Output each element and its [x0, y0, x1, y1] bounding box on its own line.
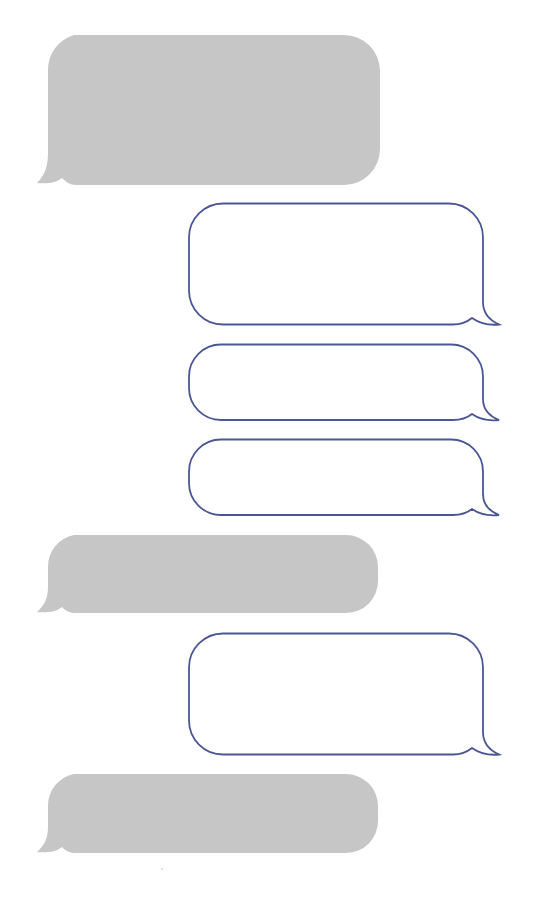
incoming-bubble-shape [36, 34, 382, 186]
message-bubble-outgoing [187, 343, 503, 423]
outgoing-bubble-shape [187, 632, 503, 757]
outgoing-bubble-shape [187, 343, 503, 423]
message-bubble-incoming [36, 534, 382, 616]
message-bubble-incoming [36, 773, 382, 857]
message-bubble-incoming [36, 34, 382, 186]
outgoing-bubble-shape [187, 202, 503, 327]
message-bubble-outgoing [187, 202, 503, 327]
decorative-speck [161, 868, 163, 870]
message-bubble-outgoing [187, 438, 503, 518]
incoming-bubble-shape [36, 534, 382, 616]
incoming-bubble-shape [36, 773, 382, 857]
message-bubble-outgoing [187, 632, 503, 757]
outgoing-bubble-shape [187, 438, 503, 518]
